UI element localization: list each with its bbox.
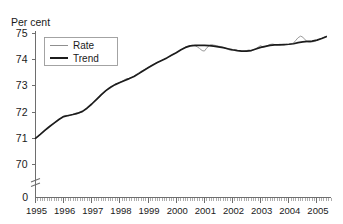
y-tick-label: 74	[16, 53, 28, 65]
x-tick-label: 1996	[54, 205, 75, 216]
x-tick-label: 1998	[110, 205, 131, 216]
y-tick-label: 75	[16, 27, 28, 39]
x-tick-label: 1999	[139, 205, 160, 216]
x-tick-label: 2000	[167, 205, 188, 216]
x-tick-label: 2002	[223, 205, 244, 216]
y-axis-zero-label: 0	[22, 191, 28, 203]
x-axis-ticks	[36, 198, 332, 204]
x-axis-labels: 1995199619971998199920002001200220032004…	[26, 205, 329, 216]
chart-container: Per cent 707172737475 0 Rate Trend 19951…	[0, 0, 343, 224]
legend-label-trend: Trend	[73, 53, 99, 64]
x-tick-label: 2005	[307, 205, 328, 216]
x-tick-label: 1995	[26, 205, 47, 216]
x-tick-label: 2001	[195, 205, 216, 216]
legend-label-rate: Rate	[73, 40, 95, 51]
x-tick-label: 2004	[279, 205, 300, 216]
y-tick-label: 70	[16, 158, 28, 170]
y-tick-label: 73	[16, 79, 28, 91]
x-tick-label: 2003	[251, 205, 272, 216]
chart-legend: Rate Trend	[45, 38, 118, 66]
y-tick-label: 71	[16, 132, 28, 144]
y-tick-label: 72	[16, 106, 28, 118]
y-axis-ticks: 707172737475	[16, 27, 36, 170]
x-tick-label: 1997	[82, 205, 103, 216]
line-chart: Per cent 707172737475 0 Rate Trend 19951…	[0, 0, 343, 224]
